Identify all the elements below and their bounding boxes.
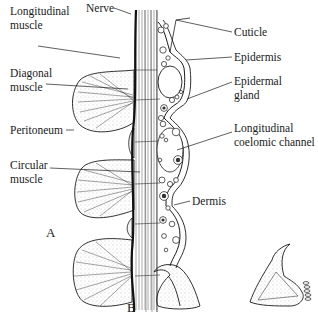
seta-teeth bbox=[303, 282, 311, 301]
seta-drawing-left bbox=[154, 265, 200, 309]
anatomical-figure: Longitudinal muscle Diagonal muscle Peri… bbox=[0, 0, 318, 324]
label-epidermis: Epidermis bbox=[234, 50, 281, 64]
label-dermis: Dermis bbox=[192, 194, 226, 208]
label-nerve: Nerve bbox=[86, 1, 114, 15]
label-peritoneum: Peritoneum bbox=[10, 123, 63, 137]
label-diagonal-muscle: Diagonal muscle bbox=[10, 66, 52, 94]
label-longitudinal-muscle: Longitudinal muscle bbox=[10, 4, 69, 32]
label-circular-muscle: Circular muscle bbox=[10, 158, 48, 186]
label-longitudinal-coelomic-channel: Longitudinal coelomic channel bbox=[234, 121, 315, 149]
longitudinal-muscle-lobes bbox=[73, 70, 135, 306]
seta-drawing-right bbox=[250, 244, 303, 306]
label-epidermal-gland: Epidermal gland bbox=[234, 74, 282, 102]
panel-label-a: A bbox=[46, 225, 55, 241]
label-cuticle: Cuticle bbox=[234, 25, 267, 39]
panel-label-b: B bbox=[127, 300, 136, 316]
